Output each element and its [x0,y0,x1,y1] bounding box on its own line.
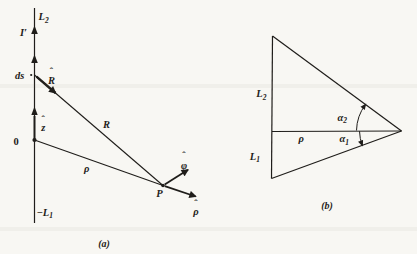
diagram-a: L2 I′ ds ˆ R R ˆ z 0 ρ P ˆ φ ˆ ρ −L1 (a) [14,8,200,250]
ds-direction-arrowhead [31,55,38,64]
label-ds: ds [15,70,24,81]
label-rho-hat: ρ [192,206,199,217]
figure-svg: L2 I′ ds ˆ R R ˆ z 0 ρ P ˆ φ ˆ ρ −L1 (a) [0,0,417,254]
label-L1-b: L1 [249,151,260,165]
label-L2-b: L2 [255,88,266,102]
label-P: P [156,188,163,199]
caption-b: (b) [321,200,333,212]
caption-a: (a) [98,238,110,250]
label-neg-L1: −L1 [37,207,54,221]
z-hat-arrowhead [31,107,37,116]
label-alpha1: α1 [340,133,350,147]
origin-point [32,138,36,142]
ds-point-dot [30,74,32,76]
rho-hat-vector [165,186,196,196]
label-origin-0: 0 [14,136,19,147]
rho-line [35,140,164,186]
phi-hat-vector [165,170,188,185]
rho-baseline [272,131,402,132]
triangle-lower-hypotenuse [272,131,402,179]
diagram-b: L2 L1 ρ α2 α1 (b) [249,36,402,212]
label-rho-a: ρ [83,163,90,174]
label-R: R [102,119,110,130]
label-rho-b: ρ [298,133,305,144]
current-direction-arrowhead [31,26,38,35]
label-R-hat: R [47,75,55,86]
label-alpha2: α2 [338,112,348,126]
label-L2-a: L2 [38,11,49,25]
label-z-hat: z [40,122,46,133]
label-current-I-prime: I′ [19,27,27,38]
alpha1-angle-arc [360,131,363,145]
textbook-figure-canvas: L2 I′ ds ˆ R R ˆ z 0 ρ P ˆ φ ˆ ρ −L1 (a) [0,0,417,254]
triangle-vertical-side [272,36,273,179]
alpha2-angle-arc [357,105,366,131]
label-phi-hat: φ [181,160,187,171]
